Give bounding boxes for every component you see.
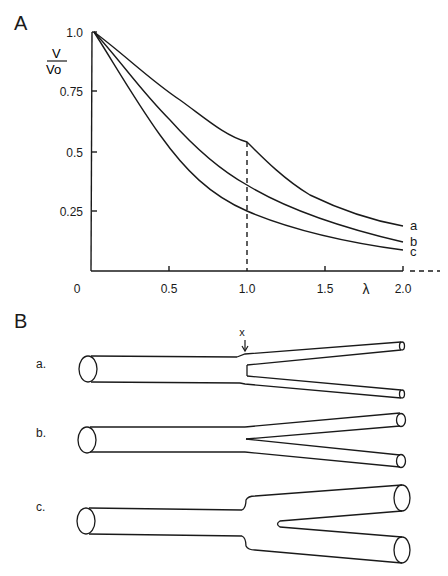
vessel-a xyxy=(79,342,405,398)
svg-text:V: V xyxy=(52,46,61,61)
figure-canvas: V Vo 1.0 0.75 0.5 0.25 0 0.5 1.0 1.5 λ 2… xyxy=(0,0,448,576)
curve-label-a: a xyxy=(410,218,418,233)
curve-a xyxy=(94,32,403,226)
svg-text:x: x xyxy=(239,326,245,338)
curve-b xyxy=(94,32,403,242)
x-tick-label: 0 xyxy=(74,282,81,296)
x-tick-label: 1.5 xyxy=(317,282,334,296)
y-axis-label: V Vo xyxy=(46,46,67,77)
y-tick-label: 0.25 xyxy=(60,205,84,219)
vessel-b xyxy=(78,413,406,468)
vessel-a-label: a. xyxy=(36,357,46,371)
vessel-c-label: c. xyxy=(36,500,45,514)
x-tick-label: 2.0 xyxy=(395,282,412,296)
x-tick-label: 0.5 xyxy=(161,282,178,296)
y-tick-label: 0.75 xyxy=(60,85,84,99)
vessel-b-label: b. xyxy=(36,426,46,440)
curve-label-c: c xyxy=(410,244,417,259)
y-tick-label: 1.0 xyxy=(66,26,83,40)
curve-c xyxy=(94,32,403,250)
x-axis-label: λ xyxy=(363,281,370,297)
bifurcation-marker: x xyxy=(239,326,248,351)
chart-axes xyxy=(91,32,440,271)
x-tick-label: 1.0 xyxy=(239,282,256,296)
svg-text:Vo: Vo xyxy=(46,62,61,77)
vessel-c xyxy=(77,485,410,563)
y-tick-label: 0.5 xyxy=(66,146,83,160)
